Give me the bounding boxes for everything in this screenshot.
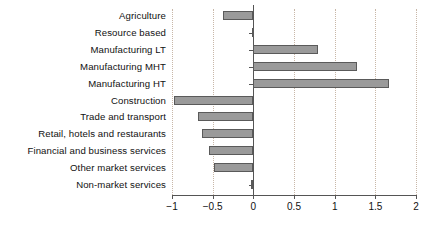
bar-chart: AgricultureResource basedManufacturing L…: [0, 0, 434, 234]
category-label: Construction: [0, 95, 166, 106]
bar: [253, 62, 356, 71]
x-axis-tick-label: 0.5: [274, 201, 314, 213]
bar: [252, 28, 254, 37]
x-axis-tick-label: 2: [396, 201, 434, 213]
category-label: Manufacturing LT: [0, 44, 166, 55]
category-label: Other market services: [0, 162, 166, 173]
category-label: Manufacturing HT: [0, 78, 166, 89]
plot-area: [172, 9, 416, 195]
bar: [202, 129, 253, 138]
x-axis-tick-label: 1.5: [355, 201, 395, 213]
x-axis-tick: [172, 195, 173, 199]
category-label: Trade and transport: [0, 111, 166, 122]
bar: [198, 112, 253, 121]
category-label: Resource based: [0, 27, 166, 38]
x-axis-tick: [335, 195, 336, 199]
x-axis-tick: [213, 195, 214, 199]
x-axis-tick: [416, 195, 417, 199]
bar: [253, 45, 318, 54]
category-label-column: AgricultureResource basedManufacturing L…: [0, 9, 166, 195]
x-axis-tick: [253, 195, 254, 199]
bar: [253, 79, 389, 88]
bar: [223, 11, 253, 20]
bar: [174, 96, 253, 105]
category-label: Financial and business services: [0, 145, 166, 156]
bar: [214, 163, 253, 172]
x-axis-tick-label: −1: [152, 201, 192, 213]
gridline: [375, 9, 377, 195]
bar: [251, 180, 253, 189]
x-axis-tick: [294, 195, 295, 199]
x-axis-tick: [375, 195, 376, 199]
category-label: Non-market services: [0, 179, 166, 190]
gridline: [335, 9, 337, 195]
x-axis-tick-label: 0: [233, 201, 273, 213]
gridline: [416, 9, 418, 195]
category-label: Retail, hotels and restaurants: [0, 128, 166, 139]
x-axis-tick-label: −0.5: [193, 201, 233, 213]
bar: [209, 146, 254, 155]
category-label: Agriculture: [0, 10, 166, 21]
x-axis-tick-label: 1: [315, 201, 355, 213]
category-label: Manufacturing MHT: [0, 61, 166, 72]
gridline: [294, 9, 296, 195]
